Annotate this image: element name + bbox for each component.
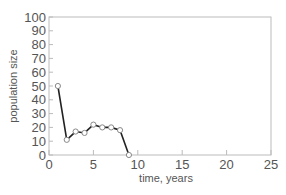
y-tick-label: 30 [32, 106, 46, 121]
x-tick-label: 15 [175, 157, 189, 172]
x-tick-label: 20 [219, 157, 233, 172]
data-point-marker [100, 125, 105, 130]
data-point-marker [73, 129, 78, 134]
y-tick-label: 10 [32, 134, 46, 149]
series-line [58, 86, 129, 155]
data-point-marker [117, 128, 122, 133]
x-axis-label: time, years [139, 172, 193, 184]
y-tick-label: 90 [32, 23, 46, 38]
y-tick-label: 70 [32, 51, 46, 66]
y-tick-label: 20 [32, 120, 46, 135]
y-tick-label: 100 [24, 10, 46, 25]
y-tick-label: 50 [32, 79, 46, 94]
x-tick-label: 0 [45, 157, 52, 172]
data-point-marker [126, 152, 131, 157]
y-tick-label: 40 [32, 92, 46, 107]
population-chart: 0102030405060708090100 0510152025 time, … [0, 0, 286, 195]
x-axis-ticks: 0510152025 [45, 150, 278, 172]
data-point-marker [64, 137, 69, 142]
x-tick-label: 25 [264, 157, 278, 172]
y-tick-label: 60 [32, 65, 46, 80]
data-point-marker [55, 83, 60, 88]
x-tick-label: 5 [90, 157, 97, 172]
y-axis-label: population size [7, 49, 19, 122]
data-point-marker [82, 130, 87, 135]
data-point-marker [109, 125, 114, 130]
x-tick-label: 10 [131, 157, 145, 172]
data-series [55, 83, 131, 157]
y-tick-label: 80 [32, 37, 46, 52]
data-point-marker [91, 122, 96, 127]
